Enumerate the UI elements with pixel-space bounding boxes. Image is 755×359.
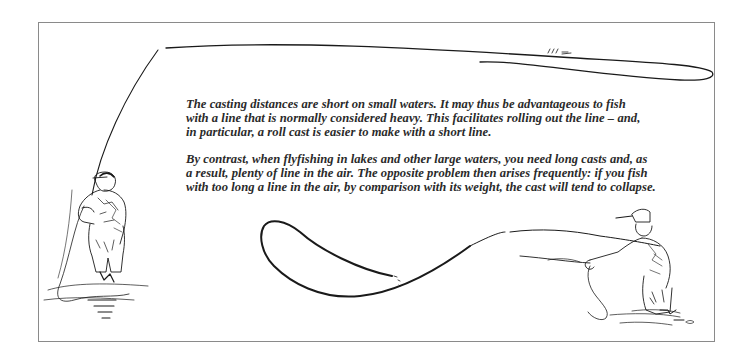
left-fisherman [44,172,148,318]
paragraph-large-waters: By contrast, when flyfishing in lakes an… [186,152,686,195]
paragraph-small-waters: The casting distances are short on small… [186,97,686,140]
right-fisherman [520,209,694,325]
middle-collapsing-loop [261,221,660,296]
body-text: The casting distances are short on small… [186,97,686,206]
